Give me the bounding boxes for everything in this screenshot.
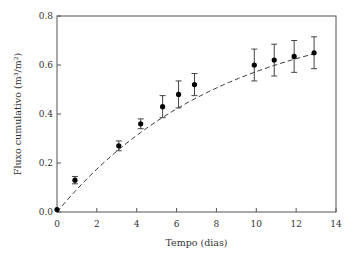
chart: 024681012140.00.20.40.60.8Tempo (dias)Fl… [0,0,357,261]
data-point [138,121,143,126]
data-point [160,104,165,109]
y-tick-label: 0.4 [39,109,54,119]
data-point [72,178,77,183]
x-tick-label: 2 [94,219,100,229]
x-tick-label: 0 [54,219,60,229]
data-point [176,92,181,97]
fit-curve [57,53,316,212]
y-tick-label: 0.6 [39,60,54,70]
x-tick-label: 12 [290,219,301,229]
x-tick-label: 8 [214,219,220,229]
y-tick-label: 0.8 [39,11,54,21]
x-tick-label: 4 [134,219,140,229]
x-tick-label: 14 [330,219,342,229]
x-tick-label: 6 [174,219,180,229]
data-point [116,143,121,148]
data-point [272,58,277,63]
data-point [311,50,316,55]
data-point [192,82,197,87]
data-point [292,54,297,59]
x-axis-label: Tempo (dias) [165,237,227,248]
data-point [252,62,257,67]
y-tick-label: 0.2 [39,158,53,168]
data-point [54,207,59,212]
x-tick-label: 10 [251,219,263,229]
y-tick-label: 0.0 [39,207,54,217]
y-axis-label: Fluxo cumulativo (m³/m²) [12,53,23,175]
